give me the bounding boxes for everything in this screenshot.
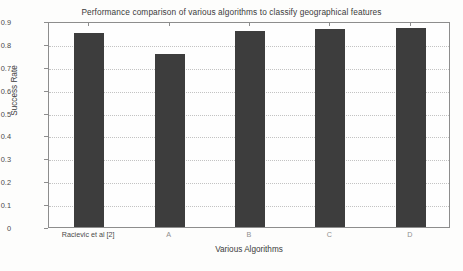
x-axis-label: Various Algorithms <box>48 245 450 254</box>
y-tick-label: 0.2 <box>0 178 11 187</box>
x-tick-label: B <box>247 230 252 239</box>
x-tick-mark <box>88 22 89 26</box>
y-tick-label: 0.6 <box>0 86 11 95</box>
bar <box>235 31 265 227</box>
bar <box>396 28 426 227</box>
x-tick-label: A <box>166 230 171 239</box>
bar <box>315 29 345 227</box>
y-tick-label: 0.9 <box>0 18 11 27</box>
bar <box>74 33 104 227</box>
chart-figure: Performance comparison of various algori… <box>0 0 463 271</box>
x-tick-label: D <box>407 230 412 239</box>
y-tick-label: 0.4 <box>0 132 11 141</box>
x-tick-mark <box>329 22 330 26</box>
y-tick-label: 0.8 <box>0 40 11 49</box>
x-tick-mark <box>169 22 170 26</box>
y-tick-label: 0.5 <box>0 109 11 118</box>
plot-area <box>48 22 450 228</box>
x-tick-mark <box>249 22 250 26</box>
y-tick-mark <box>44 228 48 229</box>
x-tick-label: Racievic et al [2] <box>62 230 115 239</box>
y-tick-label: 0.1 <box>0 201 11 210</box>
y-tick-label: 0.3 <box>0 155 11 164</box>
x-tick-label: C <box>327 230 332 239</box>
bar <box>155 54 185 227</box>
x-tick-mark <box>410 22 411 26</box>
y-tick-label: 0 <box>0 224 11 233</box>
chart-title: Performance comparison of various algori… <box>0 7 463 17</box>
y-tick-label: 0.7 <box>0 63 11 72</box>
